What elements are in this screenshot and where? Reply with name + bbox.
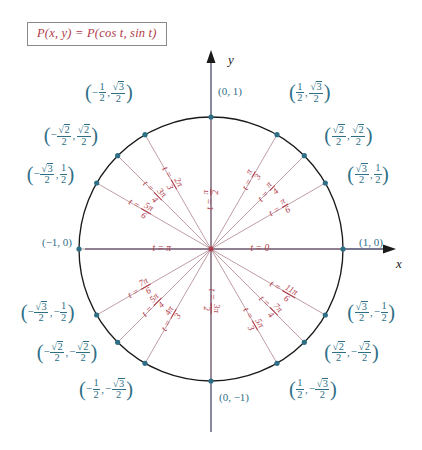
point-dot-t-pi2[interactable] bbox=[208, 114, 213, 119]
point-dot-t-4pi3[interactable] bbox=[142, 361, 147, 366]
point-dot-t-2pi3[interactable] bbox=[142, 132, 147, 137]
coord-label-t-pi4: (√22,√22) bbox=[324, 124, 372, 147]
coord-label-t-3pi2: (0, −1) bbox=[219, 392, 249, 403]
point-dot-t-3pi2[interactable] bbox=[208, 378, 213, 383]
x-axis-arrow bbox=[383, 245, 396, 254]
point-dot-t-0[interactable] bbox=[340, 246, 345, 251]
coord-label-t-7pi6: (−√32,−12) bbox=[21, 301, 75, 324]
coord-label-t-pi6: (√32,12) bbox=[347, 163, 388, 186]
point-dot-t-pi4[interactable] bbox=[302, 153, 307, 158]
coord-label-t-5pi3: (12,−√32) bbox=[289, 378, 337, 401]
point-dot-t-pi[interactable] bbox=[76, 246, 81, 251]
point-dot-t-5pi3[interactable] bbox=[274, 361, 279, 366]
angle-label-t-3pi2: t = 3π2 bbox=[201, 289, 220, 315]
point-dot-t-7pi4[interactable] bbox=[302, 340, 307, 345]
point-dot-t-3pi4[interactable] bbox=[115, 153, 120, 158]
point-dot-t-pi3[interactable] bbox=[274, 132, 279, 137]
coord-label-t-11pi6: (√32,−12) bbox=[347, 301, 395, 324]
coord-label-t-0: (1, 0) bbox=[359, 237, 383, 248]
y-axis-arrow bbox=[207, 50, 216, 63]
angle-label-t-pi2: t = π2 bbox=[201, 188, 220, 209]
coord-label-t-2pi3: (−12,√32) bbox=[85, 81, 133, 104]
coord-label-t-pi: (−1, 0) bbox=[42, 237, 72, 248]
point-dot-t-pi6[interactable] bbox=[323, 180, 328, 185]
x-axis-label: x bbox=[396, 256, 402, 272]
coord-label-t-pi2: (0, 1) bbox=[218, 86, 242, 97]
coord-label-t-4pi3: (−12,−√32) bbox=[79, 378, 133, 401]
point-dot-t-5pi4[interactable] bbox=[115, 340, 120, 345]
circle-center-dot bbox=[209, 247, 214, 252]
coord-label-t-3pi4: (−√22,√22) bbox=[44, 124, 98, 147]
angle-label-t-pi: t = π bbox=[152, 244, 171, 254]
point-dot-t-7pi6[interactable] bbox=[94, 312, 99, 317]
unit-circle-figure: P(x, y) = P(cos t, sin t) (1, 0)(√32,12)… bbox=[0, 0, 422, 450]
figure-canvas bbox=[0, 0, 422, 450]
coord-label-t-5pi4: (−√22,−√22) bbox=[37, 341, 98, 364]
coord-label-t-5pi6: (−√32,12) bbox=[27, 163, 75, 186]
point-dot-t-11pi6[interactable] bbox=[323, 312, 328, 317]
coord-label-t-7pi4: (√22,−√22) bbox=[324, 341, 378, 364]
radius-line-t-pi4 bbox=[211, 156, 304, 249]
coord-label-t-pi3: (12,√32) bbox=[289, 81, 330, 104]
y-axis-label: y bbox=[228, 52, 234, 68]
point-dot-t-5pi6[interactable] bbox=[94, 180, 99, 185]
angle-label-t-0: t = 0 bbox=[251, 244, 270, 254]
